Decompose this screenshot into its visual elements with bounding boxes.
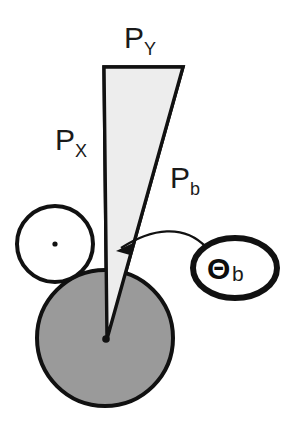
white-circle-center-dot <box>52 241 57 246</box>
label-py-sub: Y <box>144 39 156 59</box>
force-decomposition-diagram: P Y P X P b Θ b <box>0 0 287 427</box>
label-py: P Y <box>124 21 156 59</box>
gray-disc-center-dot <box>102 335 110 343</box>
label-pb-sub: b <box>190 179 200 199</box>
label-py-base: P <box>124 21 144 54</box>
label-pb: P b <box>170 161 200 199</box>
label-px-sub: X <box>75 141 87 161</box>
diagram-canvas: P Y P X P b Θ b <box>0 0 287 427</box>
label-theta-b-sub: b <box>232 262 244 285</box>
label-pb-base: P <box>170 161 190 194</box>
label-px: P X <box>55 123 87 161</box>
label-theta-b-base: Θ <box>207 252 230 285</box>
label-px-base: P <box>55 123 75 156</box>
